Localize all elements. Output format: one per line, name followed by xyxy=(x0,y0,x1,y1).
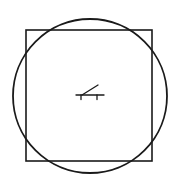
diagram-canvas xyxy=(0,0,179,185)
